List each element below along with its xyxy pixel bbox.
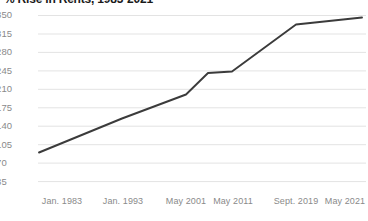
y-tick-label: 210 [0,84,36,94]
data-line-series [0,0,368,221]
y-tick-label: 70 [0,158,36,168]
plot-area: 350 315 280 245 210 175 140 105 70 35 Ja… [0,0,368,221]
y-tick-label: 175 [0,103,36,113]
y-tick-label: 105 [0,140,36,150]
y-tick-label: 280 [0,47,36,57]
x-tick-label: Sept. 2019 [274,196,319,206]
y-tick-label: 140 [0,121,36,131]
x-tick-label: Jan. 1993 [103,196,143,206]
y-tick-label: 315 [0,29,36,39]
x-tick-label: May 2011 [213,196,253,206]
y-tick-label: 245 [0,66,36,76]
x-tick-label: Jan. 1983 [42,196,82,206]
rent-rise-line-chart: % Rise in Rents, 1983-2021 350 315 280 2… [0,0,368,221]
y-tick-label: 350 [0,10,36,20]
series-line-rent-rise [39,18,362,153]
x-tick-label: May 2001 [166,196,206,206]
y-tick-label: 35 [0,177,36,187]
x-tick-label: May 2021 [325,196,365,206]
